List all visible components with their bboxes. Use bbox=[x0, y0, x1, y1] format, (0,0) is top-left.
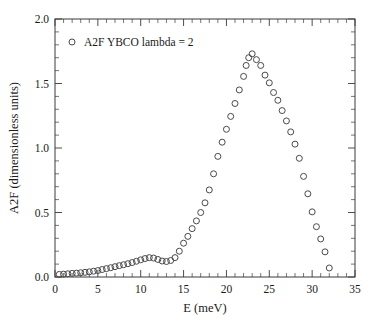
y-axis-label: A2F (dimensionless units) bbox=[7, 82, 21, 214]
data-point bbox=[249, 51, 255, 57]
x-axis-ticks bbox=[55, 19, 355, 277]
data-point bbox=[121, 262, 127, 268]
x-tick-label: 30 bbox=[306, 283, 318, 295]
data-point bbox=[243, 62, 249, 68]
data-point bbox=[99, 267, 105, 273]
data-point bbox=[279, 108, 285, 114]
data-point bbox=[193, 218, 199, 224]
x-tick-label: 25 bbox=[264, 283, 276, 295]
data-point bbox=[292, 141, 298, 147]
x-tick-label: 10 bbox=[135, 283, 147, 295]
data-point bbox=[172, 255, 178, 261]
data-point bbox=[288, 129, 294, 135]
y-tick-label: 1.5 bbox=[35, 78, 50, 90]
legend-label: A2F YBCO lambda = 2 bbox=[84, 36, 194, 48]
data-point bbox=[313, 224, 319, 230]
a2f-scatter-plot: 05101520253035 0.00.51.01.52.0 E (meV) A… bbox=[0, 0, 374, 328]
series-0 bbox=[56, 51, 332, 278]
axes-frame bbox=[55, 19, 355, 277]
x-tick-label: 0 bbox=[52, 283, 58, 295]
data-point bbox=[215, 153, 221, 159]
x-tick-label: 5 bbox=[95, 283, 101, 295]
data-point bbox=[202, 200, 208, 206]
y-tick-label: 0.0 bbox=[35, 271, 50, 283]
data-point bbox=[163, 259, 169, 265]
data-point bbox=[246, 55, 252, 61]
data-point bbox=[211, 171, 217, 177]
y-tick-label: 2.0 bbox=[35, 13, 50, 25]
data-point bbox=[125, 261, 131, 267]
legend-marker-open-circle bbox=[69, 39, 75, 45]
data-point bbox=[236, 87, 242, 93]
data-point bbox=[275, 97, 281, 103]
data-point bbox=[198, 210, 204, 216]
x-axis-label: E (meV) bbox=[183, 301, 226, 315]
data-point bbox=[206, 187, 212, 193]
data-point bbox=[116, 263, 122, 269]
data-point bbox=[326, 265, 332, 271]
data-point bbox=[266, 80, 272, 86]
data-point bbox=[283, 118, 289, 124]
data-point bbox=[228, 113, 234, 119]
data-point bbox=[189, 226, 195, 232]
data-point bbox=[223, 126, 229, 132]
data-point bbox=[262, 72, 268, 78]
x-tick-label: 35 bbox=[349, 283, 361, 295]
data-point bbox=[305, 191, 311, 197]
data-point bbox=[112, 264, 118, 270]
data-point bbox=[108, 265, 114, 271]
data-point bbox=[309, 209, 315, 215]
y-axis-tick-labels: 0.00.51.01.52.0 bbox=[35, 13, 50, 283]
figure-container: 05101520253035 0.00.51.01.52.0 E (meV) A… bbox=[0, 0, 374, 328]
data-point bbox=[232, 100, 238, 106]
plot-frame bbox=[55, 19, 355, 277]
x-tick-label: 20 bbox=[221, 283, 233, 295]
data-point bbox=[271, 90, 277, 96]
data-point bbox=[318, 236, 324, 242]
data-point bbox=[168, 257, 174, 263]
data-point bbox=[241, 73, 247, 79]
y-tick-label: 0.5 bbox=[35, 207, 50, 219]
data-point bbox=[253, 57, 259, 63]
data-point bbox=[301, 173, 307, 179]
data-point bbox=[103, 266, 109, 272]
y-axis-ticks bbox=[55, 19, 355, 277]
data-point bbox=[185, 233, 191, 239]
x-tick-label: 15 bbox=[178, 283, 190, 295]
data-point bbox=[258, 62, 264, 68]
legend: A2F YBCO lambda = 2 bbox=[69, 36, 194, 48]
data-points-layer bbox=[56, 51, 332, 278]
x-axis-tick-labels: 05101520253035 bbox=[52, 283, 361, 295]
data-point bbox=[176, 248, 182, 254]
data-point bbox=[322, 249, 328, 255]
data-point bbox=[219, 139, 225, 145]
y-tick-label: 1.0 bbox=[35, 142, 50, 154]
data-point bbox=[296, 155, 302, 161]
data-point bbox=[181, 240, 187, 246]
